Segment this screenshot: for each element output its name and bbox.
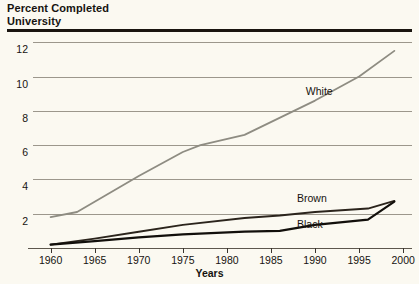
- series-label-brown: Brown: [297, 193, 327, 204]
- series-line-white: [51, 51, 395, 217]
- series-lines: [0, 0, 419, 284]
- x-axis-title: Years: [0, 267, 419, 279]
- series-label-white: White: [306, 86, 333, 97]
- series-label-black: Black: [297, 219, 323, 230]
- chart-container: Percent Completed University 24681012 19…: [0, 0, 419, 284]
